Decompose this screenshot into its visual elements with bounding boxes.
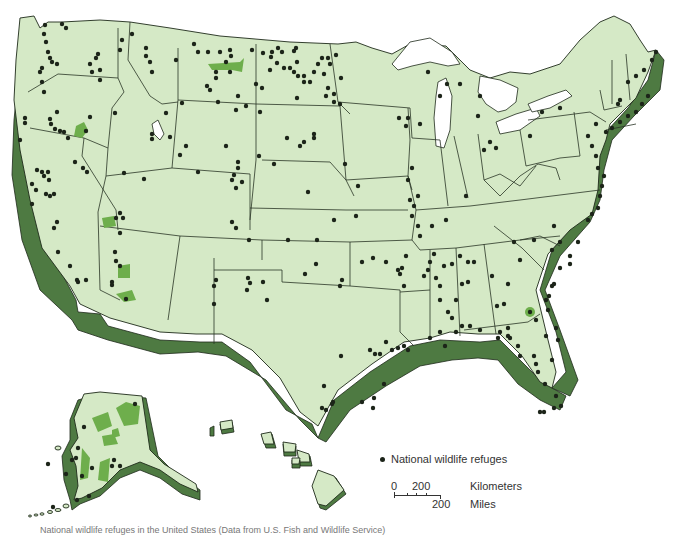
dot-icon <box>380 457 385 462</box>
scale-mi-unit: Miles <box>470 498 496 510</box>
legend-label: National wildlife refuges <box>391 453 507 465</box>
scale-km-zero: 0 <box>391 480 397 492</box>
scale-km-unit: Kilometers <box>470 480 522 492</box>
scale-tick <box>426 493 427 496</box>
scale-mi-value: 200 <box>432 498 450 510</box>
legend-item-refuges: National wildlife refuges <box>380 453 507 465</box>
scale-bar: 0 200 Kilometers 200 Miles <box>390 480 590 520</box>
scale-tick <box>394 492 395 498</box>
legend: National wildlife refuges <box>380 453 507 465</box>
scale-line <box>394 495 440 496</box>
figure-caption: National wildlife refuges in the United … <box>40 525 385 535</box>
scale-tick <box>416 493 417 496</box>
scale-km-value: 200 <box>412 480 430 492</box>
alaska <box>62 392 200 510</box>
scale-tick <box>407 493 408 496</box>
